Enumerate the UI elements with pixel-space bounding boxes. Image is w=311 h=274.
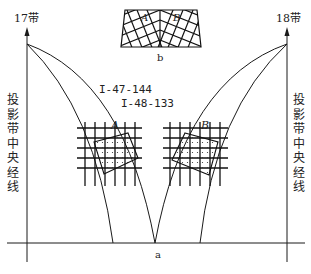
inset-caption-b: b	[157, 52, 163, 63]
sheet-b-outline	[172, 133, 218, 175]
arrow-up-icon	[285, 27, 290, 36]
inset-diagram	[110, 0, 210, 60]
left-axis-caption: 投 影 带 中 央 经 线	[6, 93, 19, 195]
sheet-label-i-48-133: I-48-133	[121, 98, 174, 109]
diagram-canvas	[0, 0, 311, 274]
main-caption-a: a	[155, 249, 161, 260]
right-axis-caption: 投 影 带 中 央 经 线	[292, 93, 305, 195]
zone-17-label: 17带	[14, 13, 39, 24]
left-zone-curves	[27, 44, 155, 243]
right-zone-curves	[155, 44, 287, 243]
region-b-label: B	[201, 120, 209, 131]
region-a-label: A	[111, 120, 119, 131]
sheet-label-i-47-144: I-47-144	[99, 84, 152, 95]
left-meridian-axis	[25, 27, 30, 262]
right-meridian-axis	[285, 27, 290, 262]
zone-18-label: 18带	[276, 13, 301, 24]
inset-b-label: B	[173, 12, 180, 23]
inset-a-label: A	[141, 12, 148, 23]
arrow-up-icon	[25, 27, 30, 36]
